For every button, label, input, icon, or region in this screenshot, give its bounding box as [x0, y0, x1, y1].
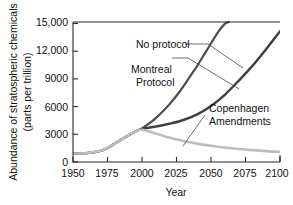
chart-container: 0 3000 6000 9000 12,000 15,000 1950 1975…	[0, 0, 293, 205]
annotation-copenhagen-line1: Copenhagen	[209, 102, 269, 114]
x-tick-label-2025: 2025	[164, 167, 188, 179]
y-tick-label-15000: 15,000	[36, 16, 68, 28]
y-axis-title-line2: (parts per trillion)	[21, 53, 33, 132]
annotation-no-protocol: No protocol	[136, 38, 190, 50]
y-tick-label-12000: 12,000	[36, 44, 68, 56]
leader-line-montreal-protocol	[172, 58, 239, 89]
y-tick-label-6000: 6000	[45, 101, 69, 113]
chart-figure: 0 3000 6000 9000 12,000 15,000 1950 1975…	[0, 0, 293, 205]
series-line-copenhagen-amendments	[73, 130, 280, 154]
x-axis-title: Year	[165, 186, 187, 198]
y-axis-title-line1: Abundance of stratospheric chemicals	[7, 3, 19, 180]
y-tick-label-9000: 9000	[45, 72, 69, 84]
x-tick-label-2000: 2000	[130, 167, 154, 179]
x-tick-label-1975: 1975	[95, 167, 119, 179]
x-tick-label-2075: 2075	[233, 167, 257, 179]
annotation-copenhagen-line2: Amendments	[209, 115, 271, 127]
x-tick-label-2050: 2050	[199, 167, 223, 179]
leader-line-no-protocol	[185, 44, 243, 68]
annotation-montreal-line1: Montreal	[131, 63, 172, 75]
x-tick-label-2100: 2100	[265, 167, 289, 179]
annotation-montreal-line2: Protocol	[136, 76, 175, 88]
y-tick-label-3000: 3000	[45, 128, 69, 140]
x-tick-label-1950: 1950	[61, 167, 85, 179]
